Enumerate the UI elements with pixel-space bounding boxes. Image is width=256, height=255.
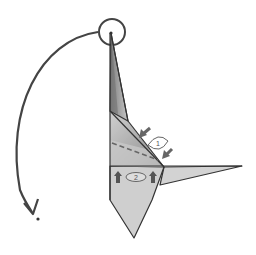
step-2-number: 2: [134, 174, 138, 181]
curved-arrow-path: [17, 32, 98, 212]
step-1-number: 1: [156, 140, 160, 147]
target-dot: [36, 217, 39, 220]
right-flap: [160, 166, 242, 185]
origami-diagram: 1 2: [0, 0, 256, 255]
rotation-arrow: [17, 32, 98, 221]
